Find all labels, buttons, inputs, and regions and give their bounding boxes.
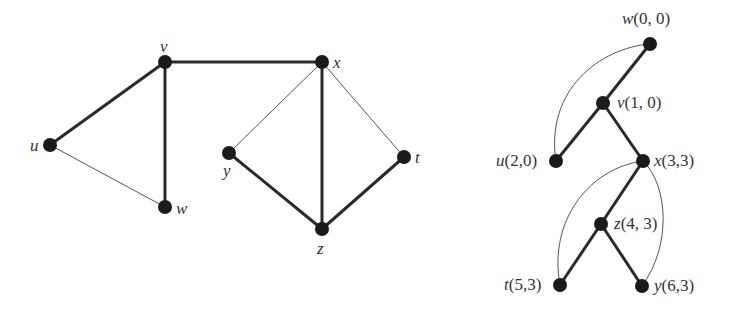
node-label-v: v	[160, 38, 168, 55]
dfs-tree-edges	[556, 44, 650, 286]
node-label-t: t	[415, 149, 420, 166]
edge-u-w	[50, 145, 165, 207]
tree-node-u	[549, 154, 563, 168]
tree-node-v	[596, 96, 610, 110]
node-coords: (0, 0)	[633, 9, 670, 28]
tree-edge-z-y	[601, 224, 642, 286]
node-coords: (5,3)	[509, 275, 542, 294]
tree-node-label-y: y(6,3)	[654, 277, 694, 294]
edge-x-t	[322, 62, 404, 157]
node-w	[158, 200, 172, 214]
tree-node-label-v: v(1, 0)	[617, 94, 661, 111]
node-label-z: z	[317, 240, 324, 257]
tree-edge-z-t	[560, 224, 601, 285]
tree-node-label-z: z(4, 3)	[614, 215, 657, 232]
node-name: y	[654, 276, 662, 295]
node-u	[43, 138, 57, 152]
node-name: u	[496, 151, 505, 170]
node-name: x	[654, 151, 662, 170]
edge-y-z	[229, 153, 322, 229]
node-label-y: y	[223, 162, 231, 179]
node-z	[315, 222, 329, 236]
node-coords: (3,3)	[662, 151, 695, 170]
node-name: z	[614, 214, 621, 233]
tree-node-x	[636, 154, 650, 168]
node-label-x: x	[333, 54, 341, 71]
left-graph-nodes	[43, 55, 411, 236]
edge-u-v	[50, 62, 165, 145]
node-name: v	[617, 93, 625, 112]
node-coords: (2,0)	[505, 151, 538, 170]
node-x	[315, 55, 329, 69]
node-coords: (4, 3)	[621, 214, 658, 233]
tree-node-w	[643, 37, 657, 51]
node-t	[397, 150, 411, 164]
dfs-tree-nodes	[549, 37, 657, 293]
node-v	[158, 55, 172, 69]
node-coords: (6,3)	[662, 276, 695, 295]
tree-node-t	[553, 278, 567, 292]
tree-node-label-x: x(3,3)	[654, 152, 694, 169]
node-name: w	[622, 9, 633, 28]
edge-x-y	[229, 62, 322, 153]
tree-node-label-t: t(5,3)	[504, 276, 541, 293]
tree-node-z	[594, 217, 608, 231]
tree-node-label-w: w(0, 0)	[622, 10, 670, 27]
left-graph-edges	[50, 62, 404, 229]
edge-z-t	[322, 157, 404, 229]
node-label-w: w	[176, 200, 187, 217]
node-coords: (1, 0)	[625, 93, 662, 112]
tree-node-label-u: u(2,0)	[496, 152, 537, 169]
tree-node-y	[635, 279, 649, 293]
node-label-u: u	[30, 137, 39, 154]
node-y	[222, 146, 236, 160]
graph-diagram	[0, 0, 733, 315]
tree-edge-v-u	[556, 103, 603, 161]
